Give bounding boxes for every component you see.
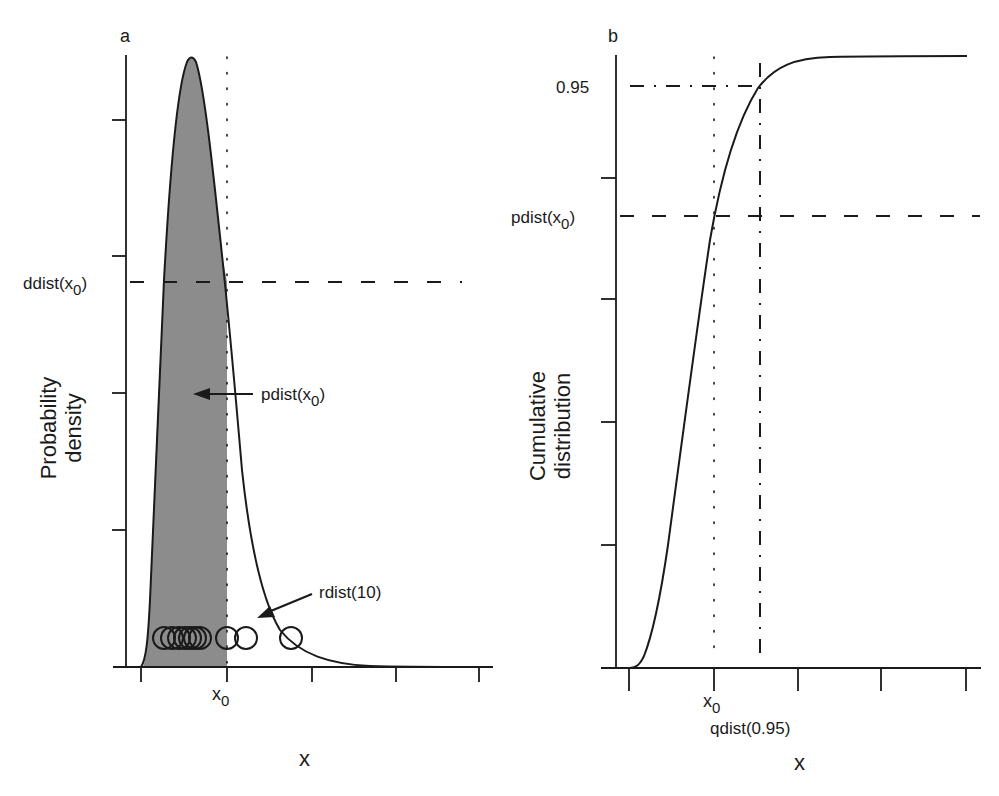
panel-b-x-axis-title: x [794,750,805,775]
svg-text:distribution: distribution [550,373,575,479]
panel-a: a [23,26,493,771]
figure: a [0,0,999,796]
panel-b-x0-label: x0 [703,691,720,716]
panel-b-pdist-label: pdist(x0) [511,208,575,232]
ddist-label: ddist(x0) [23,274,87,298]
panel-a-letter: a [120,26,131,46]
panel-a-y-axis-title: Probability density [36,377,86,480]
pdist-label: pdist(x0) [261,385,325,409]
panel-a-y-ticks [112,120,126,530]
panel-b: b 0.95 pdist(x0) x0 qdist(0.95) [511,26,981,775]
panel-b-y-ticks [601,178,616,545]
panel-a-x-axis-title: x [299,746,310,771]
panel-b-y-axis-title: Cumulative distribution [525,371,575,481]
rdist-label: rdist(10) [319,583,381,602]
cdf-curve [630,56,967,668]
svg-text:density: density [61,393,86,463]
svg-text:Probability: Probability [36,377,61,480]
y-095-label: 0.95 [556,78,589,97]
sample-point [280,627,302,649]
svg-text:Cumulative: Cumulative [525,371,550,481]
panel-b-letter: b [608,26,618,46]
pdist-shaded-area [143,58,227,668]
qdist-label: qdist(0.95) [710,719,790,738]
panel-a-x0-label: x0 [212,684,229,709]
panel-b-x-ticks [629,668,966,691]
panel-a-x-ticks [141,667,479,682]
